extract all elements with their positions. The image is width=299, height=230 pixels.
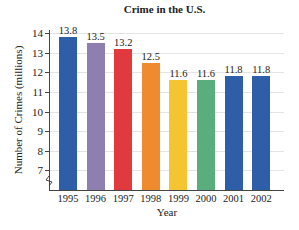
bar-1999	[169, 80, 187, 190]
bar-value-label: 12.5	[136, 51, 166, 62]
x-axis	[49, 190, 284, 191]
y-tick-label: 14	[28, 28, 43, 39]
x-tick-label: 1996	[81, 193, 111, 204]
gridline	[50, 170, 284, 171]
bar-1995	[59, 37, 77, 190]
x-tick-label: 2000	[191, 193, 221, 204]
gridline	[50, 131, 284, 132]
bar-value-label: 13.2	[108, 37, 138, 48]
gridline	[50, 92, 284, 93]
x-tick-label: 1997	[108, 193, 138, 204]
gridline	[50, 112, 284, 113]
gridline	[50, 151, 284, 152]
bar-value-label: 11.8	[219, 64, 249, 75]
axis-break-icon	[45, 176, 53, 186]
y-tick-label: 13	[28, 48, 43, 59]
bar-2000	[197, 80, 215, 190]
y-axis	[49, 30, 50, 190]
bar-2002	[252, 76, 270, 190]
bar-value-label: 11.8	[246, 64, 276, 75]
bar-value-label: 13.5	[81, 31, 111, 42]
bar-value-label: 11.6	[163, 68, 193, 79]
x-tick-label: 1999	[163, 193, 193, 204]
bar-2001	[225, 76, 243, 190]
y-axis-title: Number of Crimes (millions)	[12, 40, 24, 180]
y-tick-label: 10	[28, 107, 43, 118]
x-axis-title: Year	[152, 206, 182, 218]
x-tick-label: 1995	[53, 193, 83, 204]
bar-value-label: 13.8	[53, 25, 83, 36]
y-tick-label: 12	[28, 67, 43, 78]
x-tick-label: 1998	[136, 193, 166, 204]
chart-title: Crime in the U.S.	[0, 3, 299, 15]
y-tick-label: 7	[28, 165, 43, 176]
x-tick-label: 2002	[246, 193, 276, 204]
gridline	[50, 53, 284, 54]
y-tick-label: 8	[28, 146, 43, 157]
bar-1997	[114, 49, 132, 190]
x-tick-label: 2001	[219, 193, 249, 204]
bar-1998	[142, 63, 160, 190]
y-tick-label: 11	[28, 87, 43, 98]
y-tick-label: 9	[28, 126, 43, 137]
bar-1996	[87, 43, 105, 190]
bar-value-label: 11.6	[191, 68, 221, 79]
